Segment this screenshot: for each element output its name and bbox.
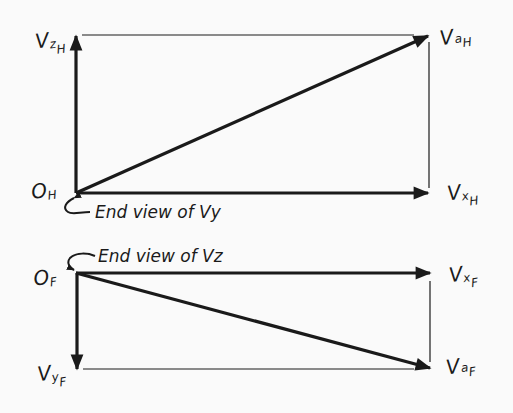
label-vy-f: VyF bbox=[36, 359, 69, 393]
note-end-view-vz: End view of Vz bbox=[98, 246, 224, 266]
leader-end-view-vz bbox=[68, 254, 95, 270]
label-origin-h: OH bbox=[30, 177, 58, 205]
label-vx-f: VxF bbox=[447, 259, 480, 293]
label-vx-h: VxH bbox=[446, 178, 480, 212]
label-vz-h: VzH bbox=[34, 26, 67, 60]
vector-va-f bbox=[76, 273, 430, 368]
label-va-f: VaF bbox=[444, 351, 478, 382]
label-origin-f: OF bbox=[32, 264, 59, 292]
label-va-h: VaH bbox=[438, 22, 473, 53]
front-view: End view of Vz OF VxF VaF VyF bbox=[32, 246, 480, 392]
top-view: VzH VaH VxH OH End view of Vy bbox=[30, 22, 480, 222]
note-end-view-vy: End view of Vy bbox=[95, 202, 222, 222]
leader-end-view-vy bbox=[65, 198, 90, 213]
vector-va-h bbox=[76, 36, 428, 193]
vector-diagram: VzH VaH VxH OH End view of Vy End view o… bbox=[0, 0, 513, 413]
